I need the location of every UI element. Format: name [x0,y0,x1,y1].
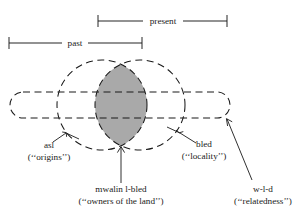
bled-leader [167,127,196,143]
lens-intersection-shading [95,64,147,146]
present-span-label: present [150,16,177,26]
wld-gloss-label: (‘‘relatedness’’) [234,196,292,206]
wld-leader [226,119,252,180]
asl-leader [53,132,79,142]
diagram-canvas: present past [0,0,308,217]
wld-term-label: w-l-d [253,184,273,194]
past-span-label: past [68,38,83,48]
asl-gloss-label: (‘‘origins’’) [28,152,71,162]
asl-label-group: asl (‘‘origins’’) [28,140,71,162]
mwalin-leader [117,147,124,183]
wld-label-group: w-l-d (‘‘relatedness’’) [234,184,292,206]
bled-term-label: bled [196,139,212,149]
venn-diagram-figure: present past [0,0,308,217]
past-span-bracket: past [9,37,142,49]
bled-label-group: bled (‘‘locality’’) [182,139,227,161]
mwalin-gloss-label: (‘‘owners of the land’’) [78,196,163,206]
mwalin-label-group: mwalin l-bled (‘‘owners of the land’’) [78,184,163,206]
present-span-bracket: present [98,15,227,27]
asl-term-label: asl [44,140,55,150]
mwalin-term-label: mwalin l-bled [95,184,147,194]
bled-gloss-label: (‘‘locality’’) [182,151,227,161]
